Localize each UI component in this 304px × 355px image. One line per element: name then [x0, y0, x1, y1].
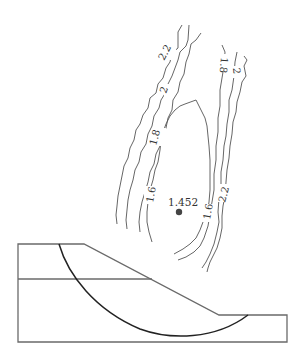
contour-label-2-right: 2 — [231, 67, 243, 74]
slope-stability-diagram: 2.2 2 1.8 1.6 1.6 1.8 2 2.2 1.452 — [0, 0, 304, 355]
contour-2.2-right — [207, 56, 247, 272]
contours-right — [178, 45, 247, 272]
contour-label-1.8-right: 1.8 — [218, 57, 230, 74]
slope-geometry — [18, 244, 287, 342]
slope-outline — [18, 244, 287, 342]
critical-slip-surface — [59, 244, 248, 336]
contour-2-right — [202, 52, 237, 268]
min-factor-of-safety-label: 1.452 — [168, 196, 198, 208]
contour-1.6 — [147, 100, 210, 254]
critical-center: 1.452 — [168, 196, 198, 215]
critical-center-point — [176, 209, 182, 215]
